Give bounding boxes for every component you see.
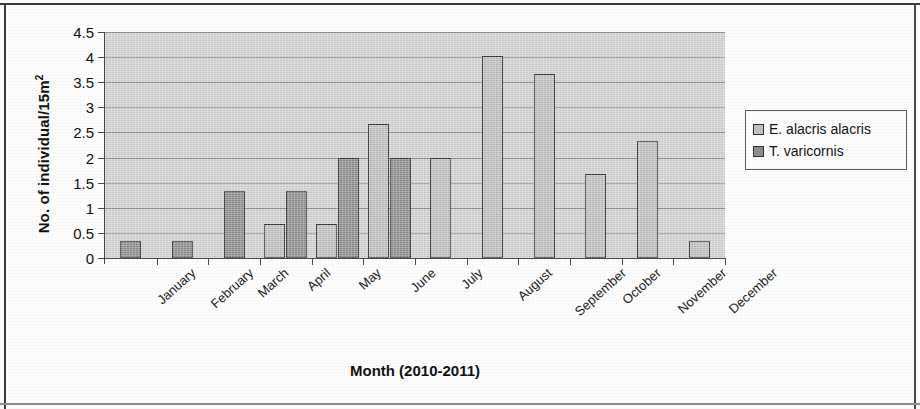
x-axis-tick — [415, 258, 416, 265]
x-axis-tick — [157, 258, 158, 265]
gridline — [105, 183, 725, 184]
chart-legend: E. alacris alacrisT. varicornis — [745, 110, 907, 170]
x-axis-tick — [208, 258, 209, 265]
bar — [286, 191, 307, 258]
x-axis-category-label: August — [515, 266, 554, 303]
legend-swatch-icon — [753, 124, 764, 135]
y-axis-tick — [98, 132, 105, 133]
x-axis-tick — [622, 258, 623, 265]
y-axis-tick-label: 2 — [34, 151, 94, 166]
x-axis-tick — [363, 258, 364, 265]
bar — [430, 158, 451, 258]
gridline — [105, 32, 725, 33]
y-axis-tick-label: 2.5 — [34, 125, 94, 140]
y-axis-tick-label: 0 — [34, 251, 94, 266]
legend-item: E. alacris alacris — [753, 118, 897, 140]
x-axis-tick — [260, 258, 261, 265]
legend-swatch-icon — [753, 146, 764, 157]
y-axis-tick — [98, 32, 105, 33]
x-axis-category-label: November — [675, 266, 728, 316]
bar — [120, 241, 141, 258]
gridline — [105, 57, 725, 58]
bar — [585, 174, 606, 258]
x-axis-tick — [725, 258, 726, 265]
bar — [689, 241, 710, 258]
x-axis-title: Month (2010-2011) — [105, 362, 725, 379]
bar-chart: No. of individual/15m2 00.511.522.533.54… — [0, 0, 920, 409]
legend-item: T. varicornis — [753, 140, 897, 162]
bar — [637, 141, 658, 258]
scanned-page: No. of individual/15m2 00.511.522.533.54… — [0, 0, 920, 409]
gridline — [105, 208, 725, 209]
y-axis-tick — [98, 233, 105, 234]
bar — [368, 124, 389, 258]
legend-item-label: T. varicornis — [769, 144, 844, 158]
plot-scan-texture — [105, 32, 725, 258]
x-axis-category-label: December — [726, 266, 779, 316]
gridline — [105, 132, 725, 133]
y-axis-tick-label: 3.5 — [34, 75, 94, 90]
x-axis-category-label: February — [208, 266, 255, 310]
legend-item-label: E. alacris alacris — [769, 122, 871, 136]
x-axis-tick — [673, 258, 674, 265]
x-axis-tick — [518, 258, 519, 265]
y-axis-tick — [98, 208, 105, 209]
x-axis-category-label: April — [305, 266, 333, 293]
bar — [482, 56, 503, 258]
x-axis-category-label: January — [155, 266, 198, 307]
x-axis-tick — [570, 258, 571, 265]
y-axis-tick — [98, 82, 105, 83]
y-axis-tick-labels: 00.511.522.533.544.5 — [28, 0, 94, 300]
gridline — [105, 107, 725, 108]
plot-area — [105, 32, 725, 258]
x-axis-category-label: May — [356, 266, 383, 292]
bar — [534, 74, 555, 258]
x-axis-category-label: September — [572, 266, 628, 318]
y-axis-tick — [98, 57, 105, 58]
x-axis-category-label: June — [408, 266, 438, 295]
y-axis-tick-label: 3 — [34, 100, 94, 115]
bar — [264, 224, 285, 258]
gridline — [105, 158, 725, 159]
y-axis-tick-label: 4.5 — [34, 25, 94, 40]
bar — [316, 224, 337, 258]
bar — [338, 158, 359, 258]
gridline — [105, 233, 725, 234]
bar — [224, 191, 245, 258]
y-axis-tick — [98, 158, 105, 159]
y-axis-line — [104, 32, 105, 264]
y-axis-tick — [98, 183, 105, 184]
y-axis-tick — [98, 107, 105, 108]
x-axis-category-label: July — [459, 266, 485, 291]
x-axis-tick — [467, 258, 468, 265]
x-axis-category-label: March — [255, 266, 291, 300]
y-axis-tick-label: 1.5 — [34, 176, 94, 191]
bar — [390, 158, 411, 258]
bar — [172, 241, 193, 258]
gridline — [105, 82, 725, 83]
y-axis-tick-label: 4 — [34, 50, 94, 65]
y-axis-tick-label: 0.5 — [34, 226, 94, 241]
x-axis-tick — [312, 258, 313, 265]
y-axis-tick-label: 1 — [34, 201, 94, 216]
